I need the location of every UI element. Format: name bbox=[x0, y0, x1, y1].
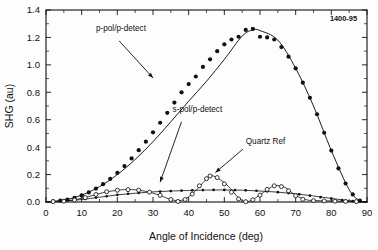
data-point bbox=[137, 148, 141, 152]
p-pol-annotation-leader bbox=[119, 41, 153, 78]
data-point bbox=[272, 37, 276, 41]
data-point bbox=[215, 49, 219, 53]
x-tick-label: 10 bbox=[76, 207, 87, 218]
y-tick-label: 0.8 bbox=[27, 87, 40, 98]
data-point bbox=[83, 196, 87, 200]
data-point bbox=[294, 194, 298, 198]
s-pol-annotation: s-pol/p-detect bbox=[173, 105, 223, 114]
data-point bbox=[187, 82, 191, 86]
s-pol-annotation-arrowhead bbox=[160, 177, 164, 183]
data-point bbox=[265, 187, 269, 191]
data-point bbox=[344, 181, 348, 185]
data-point bbox=[222, 182, 226, 186]
data-point bbox=[158, 121, 162, 125]
data-point bbox=[151, 130, 155, 134]
data-point bbox=[137, 188, 141, 192]
data-point bbox=[190, 192, 194, 196]
x-tick-label: 0 bbox=[43, 207, 48, 218]
data-point bbox=[205, 177, 209, 181]
x-tick-label: 70 bbox=[290, 207, 301, 218]
data-point bbox=[298, 193, 301, 196]
data-point bbox=[172, 100, 176, 104]
quartz-ref-annotation: Quartz Ref bbox=[246, 137, 286, 146]
data-point bbox=[158, 193, 162, 197]
x-tick-label: 30 bbox=[148, 207, 159, 218]
data-point bbox=[201, 65, 205, 69]
fit-curve bbox=[46, 29, 367, 202]
data-point bbox=[294, 66, 298, 70]
shg-plot: 01020304050607080900.00.20.40.60.81.01.2… bbox=[0, 0, 378, 250]
data-point bbox=[322, 199, 326, 203]
data-point bbox=[234, 189, 237, 192]
data-point bbox=[229, 37, 233, 41]
data-point bbox=[212, 189, 215, 192]
data-point bbox=[309, 194, 312, 197]
data-point bbox=[115, 171, 119, 175]
data-point bbox=[301, 197, 305, 201]
data-point bbox=[208, 57, 212, 61]
data-point bbox=[336, 166, 340, 170]
p-pol-annotation: p-pol/p-detect bbox=[96, 24, 147, 33]
y-tick-label: 1.0 bbox=[27, 59, 40, 70]
data-point bbox=[180, 189, 183, 192]
data-point bbox=[258, 193, 262, 197]
data-point bbox=[122, 164, 126, 168]
data-point bbox=[322, 131, 326, 135]
data-point bbox=[329, 148, 333, 152]
data-point bbox=[208, 174, 212, 178]
data-point bbox=[191, 189, 194, 192]
data-point bbox=[258, 35, 262, 39]
data-point bbox=[244, 189, 247, 192]
y-tick-label: 0.2 bbox=[27, 169, 40, 180]
data-point bbox=[244, 28, 248, 32]
data-point bbox=[101, 182, 105, 186]
data-point bbox=[130, 156, 134, 160]
data-point bbox=[126, 188, 130, 192]
data-point bbox=[147, 190, 151, 194]
y-tick-label: 0.6 bbox=[27, 114, 40, 125]
data-point bbox=[183, 198, 187, 202]
data-point bbox=[159, 190, 162, 193]
data-point bbox=[62, 199, 66, 203]
x-tick-label: 50 bbox=[219, 207, 230, 218]
data-point bbox=[87, 190, 91, 194]
data-point bbox=[319, 196, 322, 199]
shg-figure: 01020304050607080900.00.20.40.60.81.01.2… bbox=[0, 0, 378, 250]
data-point bbox=[255, 189, 258, 192]
data-point bbox=[144, 140, 148, 144]
data-point bbox=[73, 198, 77, 202]
data-point bbox=[94, 186, 98, 190]
data-point bbox=[222, 42, 226, 46]
quartz-ref-annotation-leader bbox=[215, 149, 242, 172]
data-point bbox=[330, 197, 333, 200]
x-tick-label: 20 bbox=[112, 207, 123, 218]
y-tick-label: 1.2 bbox=[27, 32, 40, 43]
data-point bbox=[105, 190, 109, 194]
data-series-layer bbox=[46, 27, 367, 204]
x-axis-title: Angle of Incidence (deg) bbox=[149, 230, 263, 242]
data-point bbox=[197, 184, 201, 188]
data-point bbox=[108, 177, 112, 181]
data-point bbox=[251, 27, 255, 31]
data-point bbox=[354, 200, 358, 204]
figure-id-label: 1400-95 bbox=[330, 14, 357, 23]
data-point bbox=[51, 200, 55, 204]
x-tick-label: 90 bbox=[362, 207, 373, 218]
data-point bbox=[115, 188, 119, 192]
data-point bbox=[344, 199, 348, 203]
data-point bbox=[279, 45, 283, 49]
data-point bbox=[279, 185, 283, 189]
data-point bbox=[165, 111, 169, 115]
data-point bbox=[276, 191, 279, 194]
annotation-layer: p-pol/p-detects-pol/p-detectQuartz Ref bbox=[96, 24, 286, 182]
x-tick-label: 80 bbox=[326, 207, 337, 218]
data-point bbox=[351, 192, 355, 196]
data-point bbox=[237, 35, 241, 39]
y-tick-label: 0.4 bbox=[27, 142, 40, 153]
data-point bbox=[179, 90, 183, 94]
y-tick-label: 1.4 bbox=[27, 4, 40, 15]
data-point bbox=[244, 200, 248, 204]
data-point bbox=[333, 199, 337, 203]
data-point bbox=[176, 199, 180, 203]
data-point bbox=[127, 192, 130, 195]
